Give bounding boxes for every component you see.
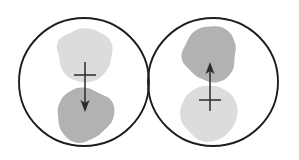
figure-container [0, 0, 299, 160]
two-cell-diagram [0, 0, 299, 160]
